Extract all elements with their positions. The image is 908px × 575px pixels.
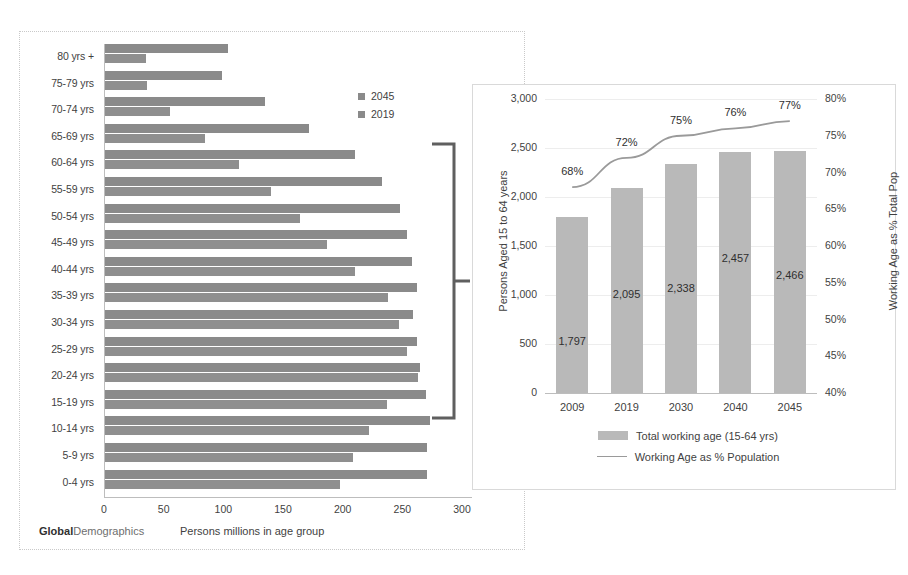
bar-2019-60-64-yrs: [104, 160, 239, 169]
percent-value-label: 75%: [664, 114, 698, 126]
bar-2019-70-74-yrs: [104, 107, 170, 116]
age-group-label: 80 yrs +: [20, 51, 94, 62]
right-chart-right-axis-title: Working Age as % Total Pop: [887, 151, 899, 331]
right-chart-right-y-tick: 70%: [825, 166, 861, 178]
percent-value-label: 77%: [773, 99, 807, 111]
bar-value-label: 2,457: [710, 252, 760, 264]
bar-2019-30-34-yrs: [104, 320, 399, 329]
bar-2019-50-54-yrs: [104, 214, 300, 223]
right-chart-right-y-tick: 80%: [825, 92, 861, 104]
legend-label: Working Age as % Population: [635, 451, 780, 463]
age-group-label: 75-79 yrs: [20, 78, 94, 89]
age-group-label: 15-19 yrs: [20, 397, 94, 408]
bar-2045-5-9-yrs: [104, 443, 427, 452]
working-age-bar-2009: [556, 217, 588, 393]
bar-2045-0-4-yrs: [104, 470, 427, 479]
left-chart-y-axis-line: [104, 44, 105, 497]
legend-item-2045: 2045: [358, 87, 394, 105]
age-group-label: 70-74 yrs: [20, 104, 94, 115]
working-age-bar-2030: [665, 164, 697, 393]
right-chart-right-y-tick: 75%: [825, 129, 861, 141]
bar-2019-45-49-yrs: [104, 240, 327, 249]
bar-2045-75-79-yrs: [104, 71, 222, 80]
left-chart-x-axis-line: [104, 497, 472, 498]
left-chart-x-tick: 50: [144, 503, 184, 515]
legend-item-2019: 2019: [358, 105, 394, 123]
right-chart-x-category: 2009: [547, 401, 597, 413]
age-group-label: 0-4 yrs: [20, 477, 94, 488]
percent-value-label: 68%: [555, 165, 589, 177]
bar-2045-40-44-yrs: [104, 257, 412, 266]
brand-name-rest: Demographics: [73, 525, 144, 537]
left-chart-x-tick: 250: [382, 503, 422, 515]
bar-2045-45-49-yrs: [104, 230, 407, 239]
bar-2019-15-19-yrs: [104, 400, 387, 409]
legend-label: 2019: [371, 108, 394, 120]
legend-item-working-age-pct: Working Age as % Population: [533, 446, 843, 467]
bar-value-label: 2,338: [656, 282, 706, 294]
left-chart-x-axis-title: Persons millions in age group: [180, 525, 324, 537]
bar-2019-0-4-yrs: [104, 480, 340, 489]
age-group-label: 20-24 yrs: [20, 370, 94, 381]
age-group-label: 5-9 yrs: [20, 450, 94, 461]
left-chart-x-tick: 0: [84, 503, 124, 515]
left-chart-x-tick: 300: [442, 503, 482, 515]
percent-value-label: 76%: [718, 106, 752, 118]
working-age-bar-2040: [719, 152, 751, 393]
bar-2045-20-24-yrs: [104, 363, 420, 372]
right-chart-right-y-tick: 60%: [825, 239, 861, 251]
working-age-combo-chart-panel: 3,0002,5002,0001,5001,000500080%75%70%65…: [472, 84, 896, 490]
right-chart-gridline: [545, 148, 817, 149]
bar-2045-80-yrs-+: [104, 44, 228, 53]
right-chart-right-y-tick: 45%: [825, 349, 861, 361]
right-chart-right-y-tick: 55%: [825, 276, 861, 288]
left-chart-x-tick: 100: [203, 503, 243, 515]
right-chart-x-category: 2040: [710, 401, 760, 413]
age-group-label: 50-54 yrs: [20, 211, 94, 222]
bar-2045-25-29-yrs: [104, 337, 417, 346]
bar-2045-35-39-yrs: [104, 283, 417, 292]
age-group-label: 25-29 yrs: [20, 344, 94, 355]
bar-2045-15-19-yrs: [104, 390, 426, 399]
right-chart-x-axis-line: [545, 393, 817, 394]
bar-2045-65-69-yrs: [104, 124, 309, 133]
bar-2045-10-14-yrs: [104, 416, 430, 425]
bar-2045-30-34-yrs: [104, 310, 413, 319]
bar-2045-60-64-yrs: [104, 150, 355, 159]
age-group-label: 45-49 yrs: [20, 237, 94, 248]
left-chart-x-tick: 200: [323, 503, 363, 515]
bar-2019-35-39-yrs: [104, 293, 388, 302]
callout-bracket-icon: [430, 142, 470, 420]
right-chart-legend: Total working age (15-64 yrs) Working Ag…: [533, 425, 843, 467]
age-group-label: 10-14 yrs: [20, 423, 94, 434]
percent-value-label: 72%: [610, 136, 644, 148]
bar-value-label: 1,797: [547, 335, 597, 347]
left-chart-legend: 2045 2019: [358, 87, 394, 123]
legend-item-total-working-age: Total working age (15-64 yrs): [533, 425, 843, 446]
right-chart-right-y-tick: 50%: [825, 313, 861, 325]
bar-2019-5-9-yrs: [104, 453, 353, 462]
right-chart-left-y-tick: 500: [495, 337, 537, 349]
right-chart-x-category: 2019: [602, 401, 652, 413]
age-group-label: 60-64 yrs: [20, 157, 94, 168]
bar-2045-55-59-yrs: [104, 177, 382, 186]
bar-value-label: 2,466: [765, 269, 815, 281]
bar-2019-75-79-yrs: [104, 81, 147, 90]
legend-swatch-icon: [358, 111, 365, 118]
bar-2019-80-yrs-+: [104, 54, 146, 63]
brand-watermark: GlobalDemographics: [39, 525, 144, 537]
bar-2019-55-59-yrs: [104, 187, 271, 196]
bar-2045-50-54-yrs: [104, 204, 400, 213]
right-chart-right-y-tick: 40%: [825, 386, 861, 398]
age-group-label: 30-34 yrs: [20, 317, 94, 328]
right-chart-right-y-tick: 65%: [825, 202, 861, 214]
age-group-label: 55-59 yrs: [20, 184, 94, 195]
brand-name-bold: Global: [39, 525, 73, 537]
right-chart-x-category: 2030: [656, 401, 706, 413]
right-chart-left-y-tick: 0: [495, 386, 537, 398]
legend-label: Total working age (15-64 yrs): [636, 430, 778, 442]
bar-value-label: 2,095: [602, 288, 652, 300]
bar-2045-70-74-yrs: [104, 97, 265, 106]
age-group-label: 40-44 yrs: [20, 264, 94, 275]
right-chart-left-axis-title: Persons Aged 15 to 64 years: [497, 151, 509, 331]
